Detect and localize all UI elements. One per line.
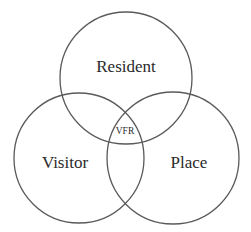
venn-diagram: Resident Visitor Place VFR <box>0 0 251 232</box>
place-label: Place <box>171 153 208 172</box>
resident-circle <box>60 12 192 144</box>
vfr-intersection-label: VFR <box>116 126 135 136</box>
visitor-label: Visitor <box>42 153 89 172</box>
resident-label: Resident <box>96 57 156 76</box>
